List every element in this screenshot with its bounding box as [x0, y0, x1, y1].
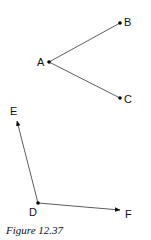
- point-a: [47, 60, 51, 64]
- label-c: C: [124, 93, 132, 105]
- ray-de: [17, 121, 38, 203]
- segment-ab: [49, 23, 120, 62]
- point-c: [118, 96, 122, 100]
- angle-edf: E D F: [10, 105, 132, 220]
- label-d: D: [29, 206, 37, 218]
- segment-ac: [49, 62, 120, 98]
- label-e: E: [10, 105, 17, 117]
- figure-diagram: A B C E D F Figure 12.37: [0, 0, 151, 240]
- label-a: A: [37, 56, 45, 68]
- label-f: F: [125, 208, 132, 220]
- point-b: [118, 21, 122, 25]
- angle-bac: A B C: [37, 16, 132, 105]
- label-b: B: [124, 16, 131, 28]
- figure-caption: Figure 12.37: [5, 224, 64, 236]
- ray-df: [38, 203, 120, 210]
- point-d: [36, 201, 40, 205]
